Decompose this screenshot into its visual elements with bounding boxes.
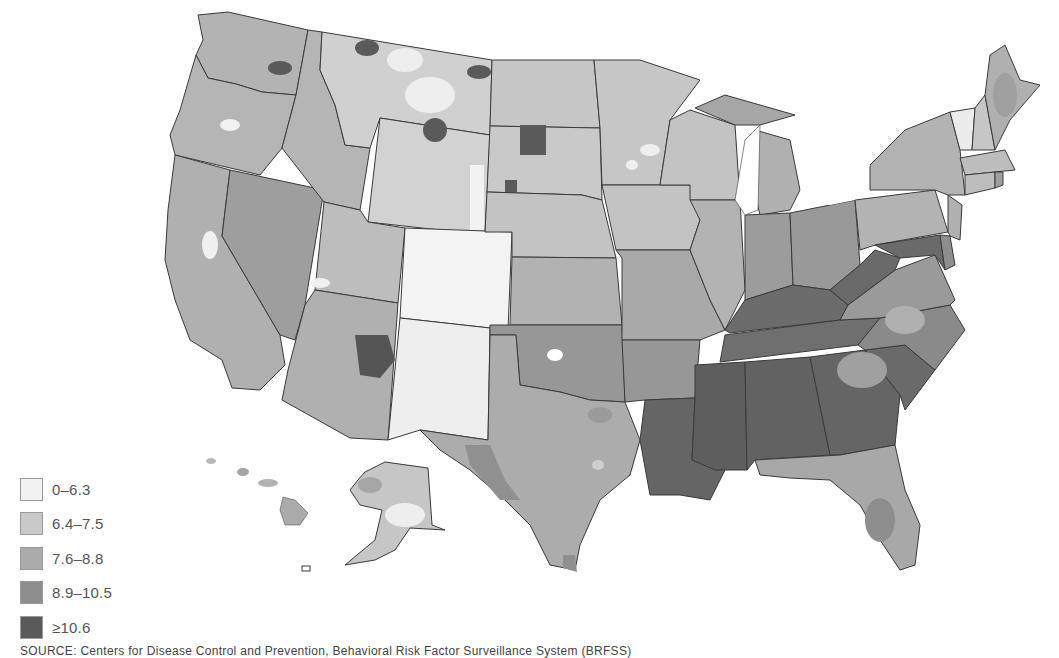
alaska-inset <box>345 462 445 565</box>
state-shapes <box>165 12 1040 570</box>
legend-label: ≥10.6 <box>52 619 90 636</box>
legend-item-1: 6.4–7.5 <box>20 507 112 542</box>
state-new-jersey <box>948 195 962 240</box>
legend-swatch <box>20 547 43 570</box>
state-kansas <box>510 257 622 325</box>
legend-swatch <box>20 581 43 604</box>
legend-item-2: 7.6–8.8 <box>20 541 112 576</box>
legend-swatch <box>20 616 43 639</box>
state-connecticut <box>965 172 995 195</box>
legend-item-0: 0–6.3 <box>20 472 112 507</box>
hawaii-inset <box>206 458 310 571</box>
legend-swatch <box>20 512 43 535</box>
state-new-york <box>870 112 965 195</box>
legend: 0–6.3 6.4–7.5 7.6–8.8 8.9–10.5 ≥10.6 <box>20 472 112 645</box>
state-rhode-island <box>995 172 1003 188</box>
state-florida <box>755 445 920 570</box>
state-north-dakota <box>490 60 600 128</box>
state-massachusetts <box>960 150 1015 175</box>
legend-item-4: ≥10.6 <box>20 610 112 645</box>
state-iowa <box>602 185 700 250</box>
legend-label: 7.6–8.8 <box>52 550 103 567</box>
legend-label: 8.9–10.5 <box>52 584 112 601</box>
legend-label: 0–6.3 <box>52 481 91 498</box>
legend-item-3: 8.9–10.5 <box>20 576 112 611</box>
state-mississippi <box>692 362 747 470</box>
legend-label: 6.4–7.5 <box>52 515 103 532</box>
state-new-mexico <box>388 318 490 440</box>
state-arkansas <box>622 340 700 402</box>
legend-swatch <box>20 478 43 501</box>
source-note: SOURCE: Centers for Disease Control and … <box>20 644 631 658</box>
state-colorado <box>400 228 512 330</box>
